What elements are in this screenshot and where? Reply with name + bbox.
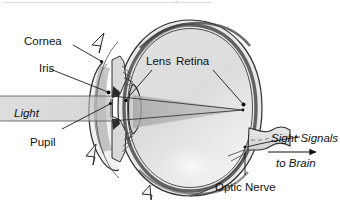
optic-disc-dot <box>244 146 247 149</box>
label-optic-nerve: Optic Nerve <box>215 181 276 193</box>
vitreous-highlight <box>138 114 242 186</box>
arrow-cornea-upper <box>92 33 104 53</box>
arrow-cornea-lower <box>86 144 96 165</box>
label-pupil: Pupil <box>30 136 56 148</box>
leader-cornea <box>73 45 101 61</box>
eye-diagram-figure: Cornea Iris Light Pupil Lens Retina Opti… <box>0 0 340 221</box>
arrow-sclera-bottom <box>142 185 152 200</box>
label-sight-signals: Sight Signals <box>271 132 338 144</box>
leader-dot-iris <box>107 91 111 95</box>
leader-dot-lens <box>124 99 127 102</box>
label-retina: Retina <box>176 55 210 67</box>
label-to-brain: to Brain <box>276 157 316 169</box>
leader-dot-pupil <box>109 102 112 105</box>
label-iris: Iris <box>39 62 55 74</box>
top-rule-fragment <box>2 1 212 3</box>
leader-dot-retina <box>242 103 246 107</box>
leader-dot-cornea <box>100 60 103 63</box>
label-cornea: Cornea <box>24 35 62 47</box>
eye-diagram-canvas: Cornea Iris Light Pupil Lens Retina Opti… <box>0 0 340 221</box>
label-light: Light <box>14 107 40 119</box>
label-lens: Lens <box>146 55 171 67</box>
focal-point <box>242 109 245 112</box>
